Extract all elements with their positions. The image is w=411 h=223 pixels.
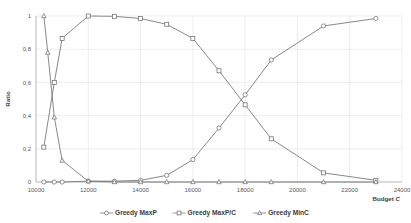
x-axis-title: Budget C: [373, 195, 401, 202]
data-point-marker: [191, 157, 195, 161]
legend-item-greedy-maxp-c[interactable]: Greedy MaxP/C: [173, 209, 237, 217]
chart-container: 00,20,40,60,8110000120001400016000180002…: [0, 0, 411, 223]
data-point-marker: [60, 158, 64, 162]
legend-label: Greedy MinC: [268, 209, 309, 217]
data-point-marker: [374, 16, 378, 20]
legend-label: Greedy MaxP/C: [188, 209, 237, 217]
x-tick-label: 14000: [132, 187, 149, 193]
data-point-marker: [321, 24, 325, 28]
legend-item-greedy-minc[interactable]: Greedy MinC: [253, 209, 309, 217]
y-tick-label: 0,6: [23, 80, 32, 86]
legend-item-greedy-maxp[interactable]: Greedy MaxP: [100, 209, 157, 217]
data-point-marker: [52, 180, 56, 184]
legend-marker: [258, 211, 262, 215]
legend-marker: [105, 211, 109, 215]
series-line: [44, 16, 376, 182]
data-point-marker: [86, 14, 90, 18]
data-point-marker: [60, 36, 64, 40]
data-point-marker: [165, 173, 169, 177]
data-point-marker: [139, 16, 143, 20]
x-tick-label: 12000: [80, 187, 97, 193]
x-tick-label: 22000: [341, 187, 358, 193]
legend-label: Greedy MaxP: [115, 209, 157, 217]
data-point-marker: [217, 126, 221, 130]
series-greedy-maxp-c: [42, 14, 378, 182]
y-tick-label: 1: [28, 13, 32, 19]
x-tick-label: 16000: [185, 187, 202, 193]
data-point-marker: [46, 50, 50, 54]
x-tick-label: 10000: [28, 187, 45, 193]
y-tick-label: 0: [28, 179, 32, 185]
data-point-marker: [60, 180, 64, 184]
data-point-marker: [243, 93, 247, 97]
data-point-marker: [52, 80, 56, 84]
y-tick-label: 0,2: [23, 146, 32, 152]
data-point-marker: [191, 36, 195, 40]
chart-legend: Greedy MaxPGreedy MaxP/CGreedy MinC: [100, 209, 309, 217]
line-chart: 00,20,40,60,8110000120001400016000180002…: [0, 0, 411, 223]
y-tick-label: 0,8: [23, 46, 32, 52]
series-line: [44, 16, 376, 180]
x-tick-label: 24000: [394, 187, 411, 193]
data-point-marker: [322, 171, 326, 175]
data-point-marker: [217, 69, 221, 73]
data-point-marker: [165, 22, 169, 26]
series-line: [44, 18, 376, 182]
y-axis-title: Ratio: [4, 91, 11, 107]
data-point-marker: [269, 137, 273, 141]
data-point-marker: [42, 14, 46, 18]
data-point-marker: [243, 103, 247, 107]
data-point-marker: [112, 14, 116, 18]
data-point-marker: [269, 58, 273, 62]
y-tick-label: 0,4: [23, 113, 32, 119]
series-greedy-maxp: [42, 16, 378, 184]
series-greedy-minc: [42, 14, 378, 184]
legend-marker: [177, 211, 181, 215]
x-tick-label: 18000: [237, 187, 254, 193]
x-tick-label: 20000: [289, 187, 306, 193]
data-point-marker: [42, 145, 46, 149]
data-point-marker: [42, 180, 46, 184]
